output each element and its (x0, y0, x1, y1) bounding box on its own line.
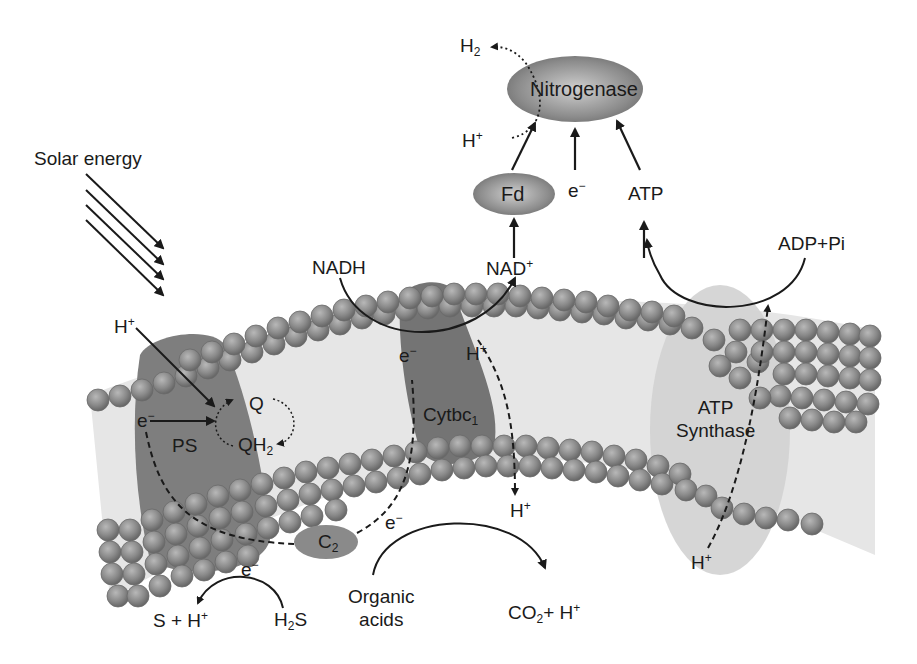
nadh-label: NADH (312, 258, 366, 277)
h-plus-nitrogenase-label: H+ (462, 130, 483, 150)
e-minus-cytbc1-label: e− (399, 345, 417, 365)
q-label: Q (249, 394, 264, 413)
qh2-label: QH2 (238, 435, 273, 457)
h-plus-atp-synthase-label: H+ (691, 552, 712, 572)
c2-label: C2 (318, 532, 338, 554)
e-minus-ps-label: e− (137, 410, 155, 430)
ps-label: PS (172, 436, 197, 455)
diagram-canvas: Nitrogenase Fd PS Cytbc1 ATPSynthase C2 … (0, 0, 917, 664)
fd-label: Fd (501, 184, 524, 204)
h2s-label: H2S (274, 610, 307, 632)
s-h-plus-label: S + H+ (153, 610, 208, 630)
diagram-svg (0, 0, 917, 664)
nitrogenase-label: Nitrogenase (530, 79, 638, 99)
sulfide-oxidation-arrow (198, 577, 283, 608)
h2-label: H2 (460, 36, 480, 58)
h-plus-cytbc1-out-label: H+ (510, 500, 531, 520)
cytbc1-label: Cytbc1 (423, 405, 478, 427)
atp-synthase-label: ATPSynthase (676, 397, 755, 443)
h-plus-ps-label: H+ (114, 316, 135, 336)
e-minus-organic-label: e− (385, 512, 403, 532)
co2-h-plus-label: CO2+ H+ (508, 602, 580, 625)
e-minus-h2s-label: e− (241, 559, 259, 579)
h-plus-cytbc1-label: H+ (466, 343, 487, 363)
nad-plus-label: NAD+ (486, 258, 533, 278)
adp-pi-label: ADP+Pi (778, 234, 845, 253)
organic-acids-label: Organicacids (348, 586, 415, 632)
solar-energy-label: Solar energy (34, 149, 142, 168)
solar-energy-arrows (86, 174, 163, 295)
atp-label: ATP (628, 184, 664, 203)
e-minus-top-label: e− (568, 180, 586, 200)
